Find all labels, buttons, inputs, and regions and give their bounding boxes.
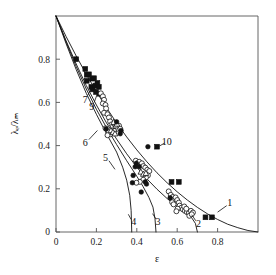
- curve-label-7: 7: [83, 94, 88, 105]
- y-tick-label-3: 0.6: [38, 98, 50, 108]
- y-tick-label-0: 0: [45, 227, 50, 237]
- figure-container: 00.20.40.60.800.20.40.60.8 1234567910 ελ…: [0, 0, 276, 275]
- marker-filled-square-1: [210, 215, 215, 220]
- marker-filled-circle-5: [137, 164, 142, 169]
- marker-filled-circle-2: [118, 131, 123, 136]
- curve-label-4: 4: [131, 216, 136, 227]
- marker-filled-square-1: [176, 179, 181, 184]
- curve-label-5: 5: [103, 152, 108, 163]
- curve-label-10: 10: [162, 136, 172, 147]
- series-filled-squares-mid: [169, 179, 181, 184]
- marker-filled-circle-12: [139, 190, 144, 195]
- x-axis-title: ε: [155, 253, 159, 264]
- marker-open-circle-58: [189, 212, 194, 217]
- marker-filled-square-0: [169, 179, 174, 184]
- y-tick-label-2: 0.4: [38, 141, 50, 151]
- marker-filled-circle-0: [104, 126, 109, 131]
- marker-open-circle-41: [171, 202, 176, 207]
- marker-filled-circle-11: [130, 180, 135, 185]
- curve-label-6: 6: [83, 137, 88, 148]
- y-axis-title: λₑ/λₘ: [9, 113, 20, 134]
- marker-filled-circle-8: [146, 144, 151, 149]
- marker-open-circle-56: [174, 209, 179, 214]
- axis-ticks: [56, 59, 218, 232]
- marker-open-circle-19: [105, 133, 110, 138]
- marker-filled-circle-10: [131, 173, 136, 178]
- scatter-plot: 00.20.40.60.800.20.40.60.8 1234567910 ελ…: [0, 0, 276, 275]
- marker-open-circle-54: [184, 206, 189, 211]
- curve-label-2: 2: [196, 218, 201, 229]
- series-filled-squares-2: [203, 215, 214, 220]
- marker-filled-circle-7: [144, 182, 149, 187]
- x-tick-label-4: 0.8: [212, 237, 224, 247]
- curve-label-9: 9: [89, 101, 94, 112]
- marker-filled-circle-13: [168, 196, 173, 201]
- x-tick-label-0: 0: [54, 237, 59, 247]
- marker-filled-square-4: [84, 78, 89, 83]
- leader-5: [109, 161, 115, 170]
- curve-3: [56, 16, 156, 232]
- series-open-circles: [98, 91, 195, 218]
- marker-filled-square-0: [155, 144, 160, 149]
- data-markers: [74, 57, 215, 220]
- x-tick-label-1: 0.2: [90, 237, 102, 247]
- curve-label-3: 3: [156, 216, 161, 227]
- marker-filled-square-0: [203, 215, 208, 220]
- curve-label-1: 1: [227, 197, 232, 208]
- leader-6: [89, 130, 97, 139]
- marker-filled-square-11: [96, 84, 101, 89]
- leader-1: [218, 206, 227, 212]
- marker-filled-square-1: [83, 67, 88, 72]
- y-tick-label-4: 0.8: [38, 55, 50, 65]
- series-filled-squares-10: [155, 144, 160, 149]
- series-filled-squares-upper: [74, 57, 102, 96]
- marker-filled-square-0: [74, 57, 79, 62]
- y-tick-label-1: 0.2: [38, 184, 50, 194]
- x-tick-label-3: 0.6: [171, 237, 183, 247]
- x-tick-label-2: 0.4: [131, 237, 143, 247]
- marker-filled-circle-9: [114, 120, 119, 125]
- marker-filled-square-6: [92, 76, 97, 81]
